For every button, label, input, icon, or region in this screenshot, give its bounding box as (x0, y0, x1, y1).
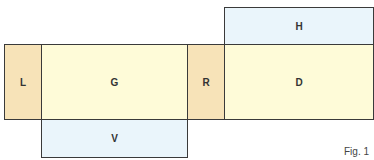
region-v-label: V (111, 133, 118, 144)
region-d-label: D (295, 77, 302, 88)
region-r: R (187, 44, 225, 120)
region-v: V (41, 119, 188, 158)
region-r-label: R (202, 77, 209, 88)
region-h-label: H (295, 21, 302, 32)
region-h: H (224, 7, 374, 45)
region-g-label: G (111, 77, 119, 88)
region-d: D (224, 44, 374, 120)
region-g: G (41, 44, 188, 120)
region-l: L (4, 44, 42, 120)
figure-caption: Fig. 1 (344, 146, 369, 157)
region-l-label: L (20, 77, 26, 88)
